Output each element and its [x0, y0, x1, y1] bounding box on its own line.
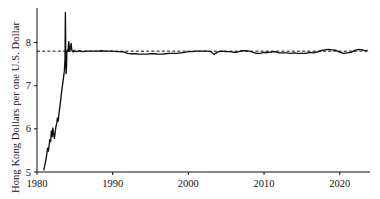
y-tick-label: 5: [26, 167, 31, 178]
x-tick-label: 2010: [254, 178, 275, 189]
x-tick-label: 2000: [178, 178, 199, 189]
chart-plot-area: 5678 19801990200020102020: [0, 0, 380, 199]
x-tick-label: 2020: [329, 178, 350, 189]
axes-group: [37, 8, 370, 172]
y-tick-label: 7: [26, 80, 31, 91]
x-tick-group: 19801990200020102020: [27, 172, 351, 189]
y-tick-label: 6: [26, 123, 31, 134]
y-tick-group: 5678: [26, 37, 37, 177]
data-series-group: [44, 12, 367, 170]
y-tick-label: 8: [26, 37, 31, 48]
chart-container: Hong Kong Dollars per one U.S. Dollar 56…: [0, 0, 380, 199]
x-tick-label: 1990: [102, 178, 123, 189]
data-line-hkd-per-usd: [44, 12, 367, 170]
x-tick-label: 1980: [27, 178, 48, 189]
